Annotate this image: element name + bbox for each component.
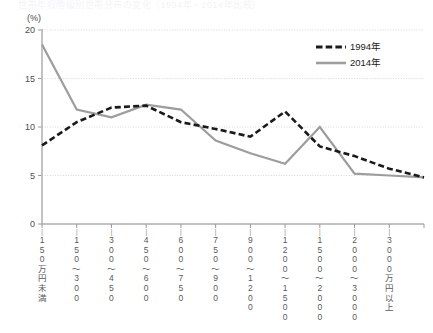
label-char: 0 <box>62 294 92 304</box>
label-char: 0 <box>96 294 126 304</box>
label-char: 0 <box>166 294 196 304</box>
y-axis-tick-label: 10 <box>25 122 35 132</box>
chart-figure: 世帯年収階級別世帯分布の変化（1994年・2014年比較） (%) 201510… <box>0 0 433 333</box>
x-axis-category-label: |300〜450 <box>96 228 126 303</box>
label-char: 0 <box>235 303 265 313</box>
x-axis-category-label: |2000〜3000 <box>340 228 370 322</box>
x-axis-category-label: |750〜900 <box>201 228 231 303</box>
y-axis-tick-label: 20 <box>25 25 35 35</box>
legend-label-1994年: 1994年 <box>350 41 381 52</box>
x-axis-category-labels: |150万円未満|150〜300|300〜450|450〜600|600〜750… <box>0 228 433 333</box>
x-axis-category-label: |450〜600 <box>131 228 161 303</box>
x-axis-category-label: |1200〜1500 <box>270 228 300 322</box>
x-axis-category-label: |900〜1200 <box>235 228 265 313</box>
label-char: 上 <box>374 303 404 313</box>
label-char: 0 <box>340 313 370 323</box>
x-axis-category-label: |1500〜2000 <box>305 228 335 322</box>
label-char: 0 <box>201 294 231 304</box>
x-axis-category-label: |3000万円以上 <box>374 228 404 313</box>
y-axis-tick-label: 15 <box>25 74 35 84</box>
label-char: 0 <box>131 294 161 304</box>
x-axis-category-label: |150〜300 <box>62 228 92 303</box>
x-axis-category-label: |150万円未満 <box>27 228 57 303</box>
y-axis-tick-label: 5 <box>30 171 35 181</box>
legend-label-2014年: 2014年 <box>350 57 381 68</box>
x-axis-category-label: |600〜750 <box>166 228 196 303</box>
label-char: 0 <box>305 313 335 323</box>
label-char: 満 <box>27 294 57 304</box>
label-char: 0 <box>270 313 300 323</box>
series-line-1994年 <box>42 106 424 178</box>
